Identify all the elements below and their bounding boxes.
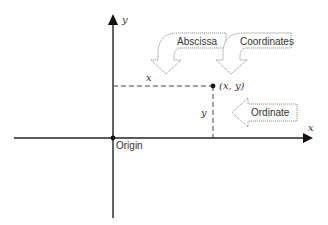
callout-coordinates: Coordinates [216, 33, 294, 74]
callout-abscissa-label: Abscissa [177, 36, 217, 47]
y-axis-label: y [121, 14, 128, 25]
callout-ordinate: Ordinate [232, 98, 297, 127]
x-axis-label: x [308, 122, 314, 133]
point-label: (x, y) [219, 80, 245, 91]
y-axis-arrow-icon [108, 14, 118, 25]
point-xy: (x, y) [211, 80, 245, 91]
callout-ordinate-label: Ordinate [251, 107, 290, 118]
x-axis-arrow-icon [303, 133, 313, 143]
origin-dot-icon [111, 136, 116, 141]
callout-coordinates-label: Coordinates [240, 36, 294, 47]
origin-label: Origin [116, 140, 143, 151]
y-axis: y [108, 14, 128, 218]
projection-lines: x y [113, 72, 213, 138]
callout-abscissa: Abscissa [151, 33, 226, 74]
ordinate-segment-label: y [200, 107, 207, 118]
abscissa-segment-label: x [146, 72, 152, 83]
coordinate-diagram: x y x y (x, y) Origin Abscis [0, 0, 328, 225]
x-axis: x [14, 122, 314, 143]
point-dot-icon [211, 84, 216, 89]
